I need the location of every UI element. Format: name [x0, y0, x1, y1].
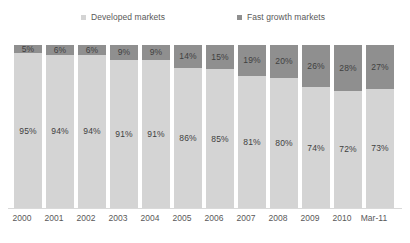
bar-segment-label: 85% [211, 134, 228, 144]
bar-segment-developed: 94% [78, 55, 106, 208]
bar-stack: 9%91% [142, 45, 170, 208]
bar-segment-label: 20% [275, 56, 292, 66]
bar-segment-fast-growth: 9% [110, 45, 138, 60]
bar-segment-label: 86% [179, 133, 196, 143]
bar-column: 27%73% [366, 45, 394, 208]
bar-segment-developed: 91% [110, 60, 138, 208]
bar-segment-developed: 72% [334, 91, 362, 208]
bar-segment-fast-growth: 9% [142, 45, 170, 60]
bar-column: 9%91% [142, 45, 170, 208]
bar-column: 9%91% [110, 45, 138, 208]
bar-segment-label: 74% [307, 143, 324, 153]
bar-segment-label: 5% [22, 45, 35, 53]
bar-column: 20%80% [270, 45, 298, 208]
plot-area: 5%95%6%94%6%94%9%91%9%91%14%86%15%85%19%… [0, 45, 410, 208]
bar-column: 5%95% [14, 45, 42, 208]
bar-segment-fast-growth: 5% [14, 45, 42, 53]
x-axis-tick-label: Mar-11 [354, 212, 394, 224]
bar-stack: 14%86% [174, 45, 202, 208]
bar-segment-fast-growth: 27% [366, 45, 394, 89]
bar-segment-label: 27% [371, 62, 388, 72]
bar-stack: 5%95% [14, 45, 42, 208]
bar-stack: 6%94% [78, 45, 106, 208]
bar-column: 6%94% [78, 45, 106, 208]
bar-segment-developed: 91% [142, 60, 170, 208]
bar-segment-label: 73% [371, 143, 388, 153]
legend-swatch-fast-growth-markets [237, 15, 242, 20]
bar-column: 26%74% [302, 45, 330, 208]
bar-column: 14%86% [174, 45, 202, 208]
bar-stack: 26%74% [302, 45, 330, 208]
bar-segment-label: 26% [307, 61, 324, 71]
bar-segment-fast-growth: 28% [334, 45, 362, 91]
bar-segment-developed: 94% [46, 55, 74, 208]
bar-segment-label: 9% [118, 47, 131, 57]
bar-stack: 20%80% [270, 45, 298, 208]
bar-segment-label: 72% [339, 144, 356, 154]
bar-segment-label: 6% [54, 45, 67, 55]
bar-column: 15%85% [206, 45, 234, 208]
bar-segment-label: 14% [179, 51, 196, 61]
x-axis-tick-labels: 2000200120022003200420052006200720082009… [0, 212, 410, 228]
bar-stack: 15%85% [206, 45, 234, 208]
bar-segment-label: 9% [150, 47, 163, 57]
bar-stack: 27%73% [366, 45, 394, 208]
bar-segment-fast-growth: 26% [302, 45, 330, 87]
stacked-bar-chart: Developed markets Fast growth markets 5%… [0, 0, 410, 243]
legend-entry-developed-markets: Developed markets [81, 12, 165, 22]
bar-column: 28%72% [334, 45, 362, 208]
bar-segment-developed: 95% [14, 53, 42, 208]
bar-stack: 6%94% [46, 45, 74, 208]
bar-segment-fast-growth: 6% [46, 45, 74, 55]
bar-segment-fast-growth: 14% [174, 45, 202, 68]
x-axis-line [8, 208, 402, 209]
bar-segment-label: 95% [19, 126, 36, 136]
bar-stack: 19%81% [238, 45, 266, 208]
bar-segment-developed: 85% [206, 69, 234, 208]
bar-stack: 9%91% [110, 45, 138, 208]
bar-segment-developed: 80% [270, 78, 298, 208]
bar-segment-label: 15% [211, 52, 228, 62]
legend-label-developed-markets: Developed markets [91, 12, 165, 22]
bar-segment-label: 19% [243, 55, 260, 65]
bar-segment-fast-growth: 15% [206, 45, 234, 69]
bar-segment-label: 94% [51, 126, 68, 136]
bar-segment-developed: 73% [366, 89, 394, 208]
bar-segment-label: 81% [243, 137, 260, 147]
bar-segment-fast-growth: 6% [78, 45, 106, 55]
bar-segment-label: 6% [86, 45, 99, 55]
bar-segment-label: 28% [339, 63, 356, 73]
bar-segment-fast-growth: 19% [238, 45, 266, 76]
bar-segment-developed: 74% [302, 87, 330, 208]
legend-swatch-developed-markets [81, 15, 86, 20]
bar-segment-label: 91% [115, 129, 132, 139]
bar-segment-developed: 86% [174, 68, 202, 208]
legend-entry-fast-growth-markets: Fast growth markets [237, 12, 325, 22]
bar-stack: 28%72% [334, 45, 362, 208]
bar-column: 6%94% [46, 45, 74, 208]
legend-label-fast-growth-markets: Fast growth markets [247, 12, 325, 22]
bar-column: 19%81% [238, 45, 266, 208]
bar-segment-label: 94% [83, 126, 100, 136]
bar-segment-label: 91% [147, 129, 164, 139]
bar-segment-label: 80% [275, 138, 292, 148]
bar-segment-developed: 81% [238, 76, 266, 208]
bar-segment-fast-growth: 20% [270, 45, 298, 78]
chart-legend: Developed markets Fast growth markets [0, 12, 410, 28]
